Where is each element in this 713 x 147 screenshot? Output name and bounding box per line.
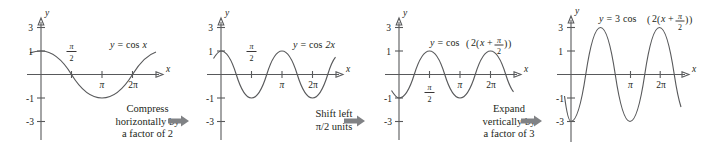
y-axis-label: y (402, 8, 408, 18)
y-ticklabel-3: 3 (28, 23, 33, 33)
y-ticklabel-neg3: -3 (384, 117, 392, 127)
svg-text:y=3cos: y=3cos (598, 13, 637, 24)
eqn3-y: y (429, 37, 435, 48)
y-ticklabel-3: 3 (558, 23, 563, 33)
eqn4-x: x (660, 13, 666, 24)
y-ticklabel-neg3: -3 (206, 117, 214, 127)
equation-label-3: y=cos ( 2 ( x + π 2 ) ) (429, 36, 511, 56)
x-axis-label: x (345, 64, 351, 74)
y-ticklabel-1: 1 (28, 47, 33, 57)
eqn2-y: y (292, 39, 298, 50)
eqn4-fn: cos (623, 13, 636, 24)
equation-label-4: y=3cos ( 2 ( x + π 2 ) ) (598, 12, 692, 32)
x-axis-label: x (691, 64, 697, 74)
eqn2-arg: 2x (325, 39, 335, 50)
x-ticklabel-2pi: 2π (656, 80, 666, 90)
y-ticklabel-3: 3 (386, 23, 391, 33)
y-ticklabel-3: 3 (208, 23, 213, 33)
eqn4-inner-close-paren: ) (685, 14, 688, 26)
y-ticklabel-1: 1 (208, 47, 213, 57)
eqn3-frac-numerator: π (497, 36, 502, 45)
equation-label-2: y=cos2x (292, 39, 335, 50)
y-ticklabel-neg3: -3 (26, 117, 34, 127)
eqn2-fn: cos (309, 39, 322, 50)
x-ticklabel-pi: π (280, 80, 285, 90)
y-axis-label: y (44, 8, 50, 18)
eqn1-arg: x (141, 39, 147, 50)
y-ticklabel-neg1: -1 (26, 94, 34, 104)
y-ticklabel-neg3: -3 (556, 117, 564, 127)
panel-4-plot: y x 3 1 -1 -3 π 2π y=3cos ( 2 ( x + π 2 … (543, 0, 713, 147)
svg-text:y=cos2x: y=cos2x (292, 39, 335, 50)
y-axis-label: y (574, 6, 580, 16)
x-ticklabel-pi-over-2-denominator: 2 (428, 95, 432, 104)
eqn4-frac-numerator: π (678, 12, 683, 21)
eqn3-open-paren: ( (466, 38, 470, 50)
x-ticklabel-pi-over-2-denominator: 2 (70, 54, 74, 63)
x-ticklabel-2pi: 2π (128, 80, 138, 90)
eqn1-eq: = (117, 39, 123, 50)
y-axis-label: y (224, 8, 230, 18)
y-ticklabel-neg1: -1 (384, 94, 392, 104)
eqn4-eq: = (606, 13, 612, 24)
eqn3-x: x (479, 37, 485, 48)
x-ticklabel-pi-over-2-denominator: 2 (250, 54, 254, 63)
right-arrow-icon (521, 113, 543, 131)
x-ticklabel-pi: π (628, 80, 633, 90)
x-ticklabel-pi-over-2-numerator: π (249, 42, 254, 51)
eqn4-amp: 3 (615, 13, 620, 24)
x-ticklabel-pi: π (458, 80, 463, 90)
eqn1-fn: cos (126, 39, 139, 50)
eqn3-fn: cos (446, 37, 459, 48)
transformation-figure: y x 3 1 -1 -3 π 2π π 2 y=cosx Compress h… (0, 0, 713, 147)
x-axis-label: x (165, 64, 171, 74)
x-ticklabel-pi-over-2-numerator: π (69, 42, 74, 51)
x-ticklabel-2pi: 2π (308, 80, 318, 90)
eqn1-y: y (109, 39, 115, 50)
y-ticklabel-1: 1 (386, 47, 391, 57)
y-ticklabel-neg1: -1 (556, 94, 564, 104)
x-axis-label: x (523, 64, 529, 74)
equation-label-1: y=cosx (109, 39, 147, 50)
x-ticklabel-pi-over-2-numerator: π (427, 83, 432, 92)
eqn4-close-paren: ) (689, 14, 692, 26)
eqn4-plus: + (668, 13, 674, 24)
eqn4-frac-denominator: 2 (678, 23, 682, 32)
eqn3-close-paren: ) (508, 38, 511, 50)
eqn3-inner-close-paren: ) (504, 38, 507, 50)
eqn3-eq: = (437, 37, 443, 48)
y-ticklabel-1: 1 (558, 47, 563, 57)
x-ticklabel-pi: π (100, 80, 105, 90)
svg-text:y=cos: y=cos (429, 37, 460, 48)
eqn4-open-paren: ( (647, 14, 651, 26)
svg-text:y=cosx: y=cosx (109, 39, 147, 50)
eqn3-plus: + (487, 37, 493, 48)
y-ticklabel-neg1: -1 (206, 94, 214, 104)
panel-three-cos-shifted: y x 3 1 -1 -3 π 2π y=3cos ( 2 ( x + π 2 … (543, 0, 713, 147)
x-ticklabel-2pi: 2π (486, 80, 496, 90)
eqn3-frac-denominator: 2 (497, 47, 501, 56)
eqn4-y: y (598, 13, 604, 24)
eqn2-eq: = (300, 39, 306, 50)
